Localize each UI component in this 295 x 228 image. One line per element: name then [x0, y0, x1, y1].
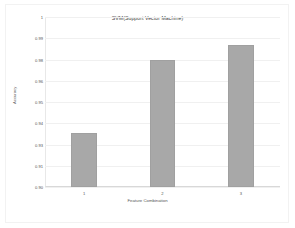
x-axis-tick-label: 2	[148, 191, 178, 196]
y-axis-tick-label: 0.93	[3, 142, 43, 147]
bar	[150, 60, 176, 188]
plot-area	[45, 17, 280, 187]
y-axis-tick-label: 1	[3, 15, 43, 20]
y-axis-tick-label: 0.91	[3, 163, 43, 168]
y-axis-tick-label: 0.99	[3, 36, 43, 41]
x-axis-tick-label: 3	[226, 191, 256, 196]
y-axis-tick-label: 0.96	[3, 78, 43, 83]
y-axis-tick-label: 0.90	[3, 185, 43, 190]
gridline	[45, 38, 280, 39]
x-axis-label: Feature Combination	[0, 198, 295, 203]
chart-figure: SVM(Support Vector Machine) Accuracy 0.9…	[0, 0, 295, 228]
y-axis-tick-label: 0.98	[3, 57, 43, 62]
gridline	[45, 17, 280, 18]
y-axis-tick-label: 0.94	[3, 121, 43, 126]
gridline	[45, 187, 280, 188]
y-axis-tick-label: 0.95	[3, 100, 43, 105]
bar	[71, 133, 97, 187]
x-axis-tick-label: 1	[69, 191, 99, 196]
bar	[228, 45, 254, 187]
